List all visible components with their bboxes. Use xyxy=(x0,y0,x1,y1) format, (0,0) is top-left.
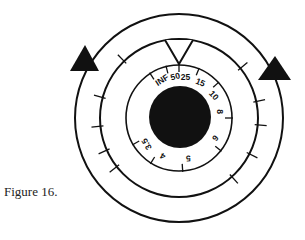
distance-label: INF xyxy=(153,72,170,88)
distance-label: 10 xyxy=(207,88,221,102)
distance-label: 25 xyxy=(181,72,191,82)
index-v-notch xyxy=(165,40,193,64)
right-arrow-triangle-icon xyxy=(258,56,291,80)
distance-label: 6 xyxy=(210,133,221,143)
scale-tick xyxy=(182,164,183,172)
scale-tick xyxy=(150,157,154,164)
ring-tick xyxy=(91,126,103,127)
scale-tick xyxy=(213,82,219,87)
figure-caption: Figure 16. xyxy=(4,184,57,200)
distance-label: 4 xyxy=(158,151,168,162)
distance-label: 50 xyxy=(169,70,181,82)
distance-label: 3.5 xyxy=(139,136,154,151)
hub-disc xyxy=(149,86,211,148)
scale-tick xyxy=(132,141,139,145)
distance-label: 5 xyxy=(185,154,191,164)
distance-label: 15 xyxy=(194,76,207,89)
ring-tick xyxy=(255,125,267,126)
distance-label: 8 xyxy=(215,109,225,114)
scale-tick xyxy=(215,146,221,151)
